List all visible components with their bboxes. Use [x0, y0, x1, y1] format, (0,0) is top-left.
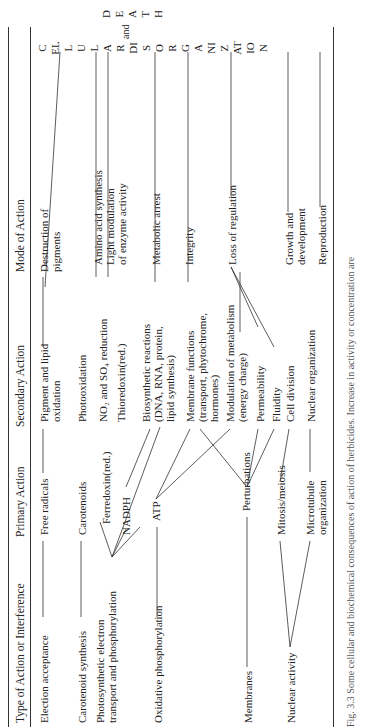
connector-arrows: [0, 0, 340, 727]
rotated-page: Type of Action or Interference Primary A…: [0, 0, 365, 727]
figure-caption: Fig. 3.3 Some cellular and biochemical c…: [345, 257, 356, 727]
